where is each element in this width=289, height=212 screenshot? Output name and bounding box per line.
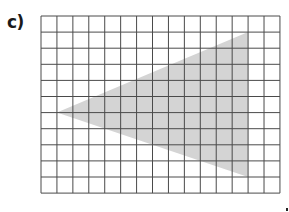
grid-diagram bbox=[0, 0, 289, 212]
page-mark bbox=[286, 208, 288, 211]
